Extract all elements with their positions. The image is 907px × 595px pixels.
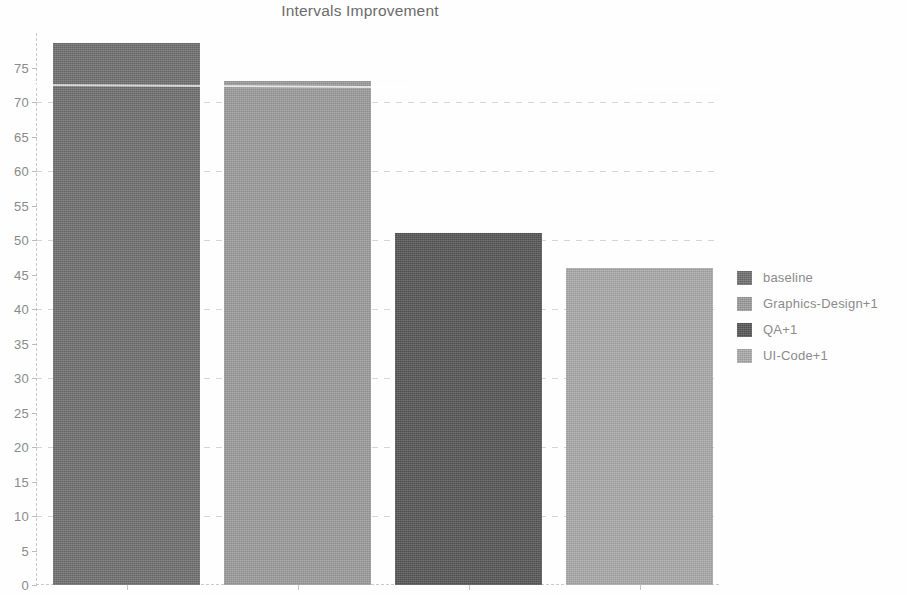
- y-axis-tick-label: 10: [14, 509, 29, 524]
- y-axis-tick: [32, 344, 37, 345]
- y-axis-tick: [32, 585, 37, 586]
- y-axis-tick-label: 0: [21, 578, 29, 593]
- legend-label: QA+1: [763, 322, 797, 337]
- y-axis-tick-label: 35: [14, 336, 29, 351]
- bar: [395, 233, 541, 585]
- y-axis-tick: [32, 275, 37, 276]
- legend-swatch: [737, 297, 752, 311]
- x-axis-tick: [469, 585, 470, 590]
- y-axis-tick: [32, 516, 37, 517]
- bar: [566, 268, 712, 585]
- bar: [53, 43, 199, 585]
- y-axis-tick: [32, 137, 37, 138]
- y-axis-tick-label: 75: [14, 60, 29, 75]
- legend-swatch: [737, 349, 752, 363]
- chart-title: Intervals Improvement: [0, 2, 720, 20]
- y-axis-tick-label: 55: [14, 198, 29, 213]
- y-axis-tick: [32, 240, 37, 241]
- y-axis-tick-label: 70: [14, 95, 29, 110]
- y-axis-tick-label: 25: [14, 405, 29, 420]
- y-axis-tick: [32, 171, 37, 172]
- legend-item[interactable]: Graphics-Design+1: [737, 292, 907, 315]
- x-axis-tick: [640, 585, 641, 590]
- chart-legend: baselineGraphics-Design+1QA+1UI-Code+1: [737, 266, 907, 370]
- x-axis-tick: [127, 585, 128, 590]
- y-axis-tick-label: 30: [14, 371, 29, 386]
- y-axis-tick-label: 65: [14, 129, 29, 144]
- y-axis-tick-label: 45: [14, 267, 29, 282]
- y-axis-tick: [32, 378, 37, 379]
- y-axis-tick: [32, 68, 37, 69]
- y-axis-tick-label: 40: [14, 302, 29, 317]
- y-axis-tick: [32, 206, 37, 207]
- legend-item[interactable]: QA+1: [737, 318, 907, 341]
- plot-area: 051015202530354045505560657075: [36, 33, 720, 585]
- y-axis-tick: [32, 447, 37, 448]
- y-axis-tick: [32, 309, 37, 310]
- bar: [224, 81, 370, 585]
- y-axis-tick: [32, 551, 37, 552]
- y-axis-tick-label: 15: [14, 474, 29, 489]
- legend-swatch: [737, 323, 752, 337]
- y-axis-tick: [32, 102, 37, 103]
- y-axis-tick-label: 5: [21, 543, 29, 558]
- y-axis-tick-label: 50: [14, 233, 29, 248]
- y-axis-tick-label: 60: [14, 164, 29, 179]
- legend-item[interactable]: UI-Code+1: [737, 344, 907, 367]
- y-axis-tick: [32, 482, 37, 483]
- legend-label: baseline: [763, 270, 813, 285]
- x-axis-tick: [298, 585, 299, 590]
- bar-chart: Intervals Improvement 051015202530354045…: [0, 0, 907, 595]
- y-axis-tick-label: 20: [14, 440, 29, 455]
- legend-swatch: [737, 271, 752, 285]
- y-axis-tick: [32, 413, 37, 414]
- legend-label: UI-Code+1: [763, 348, 828, 363]
- legend-item[interactable]: baseline: [737, 266, 907, 289]
- legend-label: Graphics-Design+1: [763, 296, 878, 311]
